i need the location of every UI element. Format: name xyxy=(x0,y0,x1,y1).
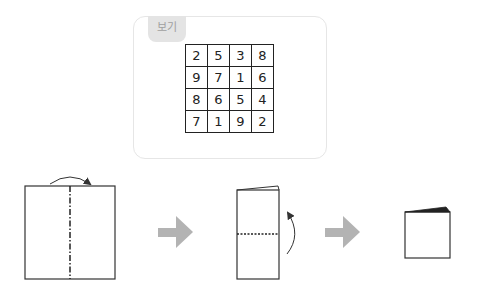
step-1-paper xyxy=(25,177,115,279)
step-2-paper xyxy=(237,186,295,279)
next-step-arrow-icon xyxy=(325,216,360,248)
paper-quarter xyxy=(405,212,450,258)
fold-arrow-icon xyxy=(50,177,90,184)
fold-arrow-icon xyxy=(287,213,295,254)
next-step-arrow-icon xyxy=(158,216,193,248)
folding-diagram xyxy=(0,0,481,300)
step-3-paper xyxy=(405,207,450,258)
